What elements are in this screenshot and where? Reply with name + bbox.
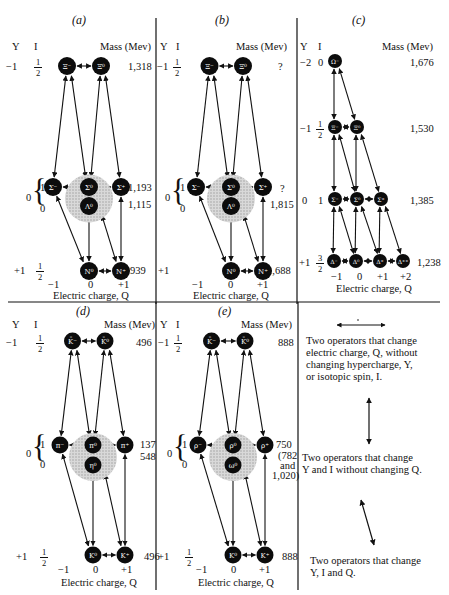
particle-node: Δ⁻ [327, 254, 341, 268]
yiq-operator-arrow [250, 350, 264, 435]
particle-node: Λ⁰ [80, 197, 98, 215]
panel-e-row1-i-upper: 1 [182, 440, 187, 451]
particle-symbol: Σ⁺ [377, 196, 384, 203]
particle-node: ρ⁻ [190, 437, 207, 454]
panel-c-row2-isospin: 1 [318, 196, 323, 207]
yiq-operator-arrow [339, 207, 353, 254]
panel-d-row2-y: +1 [16, 552, 27, 563]
panel-d-y-header: Y [12, 320, 20, 331]
particle-symbol: Ξ⁻ [331, 124, 338, 131]
panel-a-row1-mass-upper: 1,193 [128, 183, 152, 194]
particle-node: K⁺ [257, 547, 274, 564]
panel-a-row0-mass: 1,318 [128, 62, 152, 73]
yiq-operator-arrow [385, 207, 400, 254]
panel-a-i-header: I [34, 42, 38, 53]
panel-e-mass-header: Mass (Mev) [241, 320, 292, 331]
panel-b-y-header: Y [160, 42, 168, 53]
legend-item-yiq-operators: Two operators that change Y, I and Q. [310, 555, 421, 579]
particle-node: Ξ⁻ [328, 120, 342, 134]
particle-node: ρ⁰ [225, 437, 242, 454]
particle-symbol: π⁰ [89, 442, 97, 450]
yi-operator-arrow [355, 207, 356, 253]
panel-e-row2-isospin: 12 [185, 548, 193, 567]
panel-e-q-tick: −1 [196, 565, 207, 576]
panel-d-row0-y: −1 [6, 338, 17, 349]
particle-symbol: ρ⁻ [194, 442, 202, 450]
yiq-operator-arrow [105, 474, 121, 545]
particle-symbol: Σ⁺ [259, 184, 268, 192]
legend-item-charge-operators: Two operators that change electric charg… [306, 335, 417, 383]
yiq-operator-arrow [216, 350, 230, 435]
particle-node: π⁺ [117, 437, 134, 454]
panel-a-row0-y: −1 [6, 62, 17, 73]
particle-node: N⁰ [222, 262, 240, 280]
particle-node: Σ⁰ [222, 178, 240, 196]
panel-d-row0-isospin: 12 [36, 334, 44, 353]
panel-c-q-tick: 0 [357, 272, 362, 283]
panel-c-i-header: I [318, 42, 322, 53]
particle-symbol: Ξ⁻ [205, 63, 214, 71]
yiq-operator-arrow [110, 350, 124, 435]
particle-node: ω⁰ [225, 457, 242, 474]
particle-symbol: K⁺ [261, 552, 270, 560]
panel-a-row2-mass: 939 [130, 266, 146, 277]
particle-symbol: K⁰ [229, 552, 237, 560]
particle-symbol: Λ⁰ [226, 203, 235, 211]
panel-c-mass-header: Mass (Mev) [382, 42, 433, 53]
legend-text-line: Y, I and Q. [310, 567, 421, 579]
panel-a-row2-isospin: 12 [36, 262, 44, 281]
yiq-operator-arrow [244, 216, 258, 262]
panel-c-row1-y: −1 [300, 124, 311, 135]
yiq-operator-arrow [102, 216, 116, 262]
panel-e-y-header: Y [160, 320, 168, 331]
particle-symbol: N⁺ [116, 268, 126, 276]
particle-node: π⁻ [52, 437, 69, 454]
yiq-operator-arrow [339, 69, 354, 120]
panel-d-i-header: I [34, 320, 38, 331]
particle-symbol: Λ⁰ [84, 203, 93, 211]
particle-node: Σ⁺ [254, 178, 272, 196]
particle-node: Σ⁰ [350, 192, 364, 206]
yi-operator-arrow [199, 350, 210, 435]
particle-symbol: Σ⁰ [227, 184, 235, 192]
panel-c-y-header: Y [300, 42, 308, 53]
panel-b-row2-mass: 1,688 [267, 266, 291, 277]
panel-d-q-tick: 0 [93, 565, 98, 576]
particle-node: Ω⁻ [328, 54, 342, 68]
panel-c-row2-y: 0 [302, 196, 307, 207]
panel-e-label: (e) [218, 305, 231, 317]
panel-a-row1-mass-lower: 1,115 [128, 200, 151, 211]
particle-symbol: Δ⁺ [376, 258, 384, 265]
panel-a-row2-y: +1 [14, 266, 25, 277]
panel-d-label: (d) [76, 305, 90, 317]
particle-symbol: ω⁰ [229, 462, 238, 470]
yiq-operator-arrow [339, 135, 355, 192]
panel-e-row1-mass-lower-3: 1,020) [272, 471, 299, 482]
yi-operator-arrow [95, 350, 104, 435]
diagonal-double-arrow-icon [361, 500, 374, 545]
particle-symbol: N⁰ [227, 268, 236, 276]
panel-b-row2-y: +1 [158, 266, 169, 277]
panel-d-row1-mass-upper: 137 [140, 440, 156, 451]
particle-node: Ξ⁰ [234, 57, 252, 75]
panel-b-q-tick: −1 [192, 280, 203, 291]
panel-b-q-tick: +1 [257, 280, 268, 291]
particle-node: Σ⁻ [328, 192, 342, 206]
panel-c-row3-y: +1 [299, 258, 310, 269]
legend-text-line: Two operators that change [310, 555, 421, 567]
panel-b-row1-mass-lower: 1,815 [270, 200, 294, 211]
particle-symbol: Ξ⁰ [354, 124, 361, 131]
particle-symbol: Σ⁰ [85, 184, 93, 192]
particle-node: K̄⁰ [237, 333, 254, 350]
panel-e-row0-isospin: 12 [174, 334, 182, 353]
particle-symbol: K⁺ [121, 552, 130, 560]
panel-c-q-tick: +1 [377, 272, 388, 283]
particle-node: ρ⁺ [257, 437, 274, 454]
panel-a-row0-isospin: 12 [34, 58, 42, 77]
panel-a-row1-i-upper: 1 [40, 183, 45, 194]
panel-a-q-tick: −1 [48, 280, 59, 291]
particle-symbol: Δ⁰ [353, 258, 360, 265]
panel-c-row1-mass: 1,530 [410, 124, 434, 135]
particle-node: K⁰ [85, 547, 102, 564]
legend-text-line: or isotopic spin, I. [306, 371, 417, 383]
